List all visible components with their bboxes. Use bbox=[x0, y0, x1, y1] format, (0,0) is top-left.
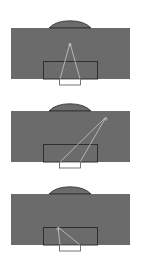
centre-arc bbox=[49, 21, 91, 28]
pitch-area bbox=[11, 111, 130, 162]
pitch-area bbox=[11, 28, 130, 79]
centre-arc bbox=[49, 187, 91, 194]
centre-arc bbox=[49, 104, 91, 111]
pitch-panel-shot-3 bbox=[0, 166, 141, 254]
goal bbox=[60, 245, 81, 251]
pitch-panel-shot-2 bbox=[0, 83, 141, 171]
pitch-panel-shot-1 bbox=[0, 0, 141, 88]
